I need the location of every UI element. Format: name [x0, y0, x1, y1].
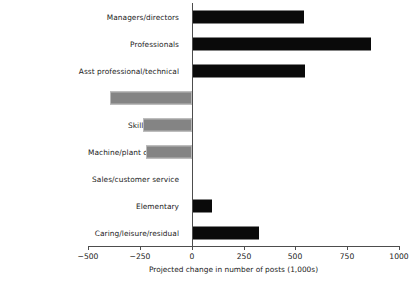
zero-axis-line	[192, 3, 193, 246]
x-axis-tick	[88, 246, 89, 250]
bar-professionals	[192, 37, 371, 50]
x-axis-title: Projected change in number of posts (1,0…	[0, 265, 411, 274]
category-label: Elementary	[136, 201, 179, 210]
x-axis-tick-label: 500	[288, 252, 303, 261]
x-axis-tick-label: 0	[190, 252, 195, 261]
category-label: Sales/customer service	[92, 174, 179, 183]
x-axis-title-text: Projected change in number of posts (1,0…	[93, 265, 318, 274]
chart-row: Sales/customer service	[0, 165, 411, 192]
bar-caring-leisure-residual	[192, 226, 259, 239]
chart-row: Caring/leisure/residual	[0, 219, 411, 246]
category-label: Caring/leisure/residual	[95, 228, 179, 237]
chart-row: Asst professional/technical	[0, 57, 411, 84]
x-axis-tick	[347, 246, 348, 250]
x-axis-tick-label: 250	[237, 252, 252, 261]
x-axis-tick	[244, 246, 245, 250]
chart-row: Machine/plant operative	[0, 138, 411, 165]
bar-asst-professional-technical	[192, 64, 305, 77]
x-axis-tick	[192, 246, 193, 250]
chart-row: Professionals	[0, 30, 411, 57]
chart-row: Elementary	[0, 192, 411, 219]
category-label: Managers/directors	[107, 12, 179, 21]
bar-admin-secretarial	[110, 91, 192, 104]
bar-managers-directors	[192, 10, 304, 23]
x-axis-tick	[140, 246, 141, 250]
bar-elementary	[192, 199, 212, 212]
category-label: Professionals	[130, 39, 179, 48]
x-axis-tick-label: −500	[78, 252, 99, 261]
chart-row: Skilled trades	[0, 111, 411, 138]
category-label: Asst professional/technical	[79, 66, 179, 75]
bar-skilled-trades	[143, 118, 192, 131]
chart-row: Admin/Secretarial	[0, 84, 411, 111]
x-axis-tick-label: 750	[340, 252, 355, 261]
x-axis-tick	[295, 246, 296, 250]
x-axis-tick-label: −250	[130, 252, 151, 261]
x-axis-tick	[399, 246, 400, 250]
bar-machine-plant-operative	[146, 145, 192, 158]
plot-area: Managers/directors Professionals Asst pr…	[0, 0, 411, 246]
chart-row: Managers/directors	[0, 3, 411, 30]
bar-chart: Managers/directors Professionals Asst pr…	[0, 0, 411, 289]
x-axis-tick-label: 1000	[389, 252, 408, 261]
